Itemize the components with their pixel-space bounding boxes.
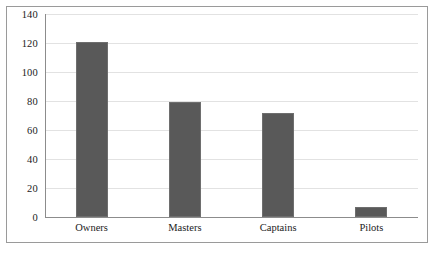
category-label-masters: Masters (168, 222, 201, 233)
category-label-owners: Owners (75, 222, 108, 233)
x-axis-category-labels: OwnersMastersCaptainsPilots (0, 0, 436, 253)
category-label-pilots: Pilots (359, 222, 383, 233)
bar-chart-figure: 020406080100120140 OwnersMastersCaptains… (0, 0, 436, 253)
category-label-captains: Captains (260, 222, 297, 233)
